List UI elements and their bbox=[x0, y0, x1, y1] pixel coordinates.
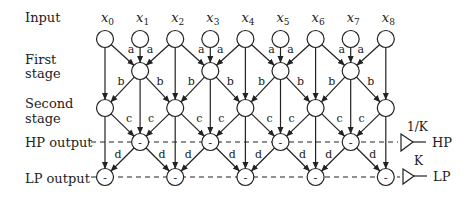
second-stage-node-4 bbox=[237, 100, 254, 117]
input-label-8: x8 bbox=[382, 10, 395, 27]
coef-a-label: a bbox=[217, 43, 224, 56]
coef-b-label: b bbox=[118, 75, 125, 88]
minus-sign: - bbox=[173, 171, 177, 184]
row-label-lp-output: LP output bbox=[25, 171, 91, 186]
second-stage-node-0 bbox=[97, 100, 114, 117]
coef-d-label: d bbox=[229, 148, 236, 161]
coef-c-label: c bbox=[337, 112, 343, 125]
lp-gain-amplifier: K LP bbox=[403, 154, 451, 184]
input-label-5: x5 bbox=[277, 10, 290, 27]
lifting-scheme-diagram: Input First stage Second stage HP output… bbox=[0, 0, 473, 200]
second-stage-node-6 bbox=[307, 100, 324, 117]
minus-sign: - bbox=[314, 171, 318, 184]
hp-output-label: HP bbox=[432, 135, 452, 150]
coef-d-label: d bbox=[299, 148, 306, 161]
coef-b-label: b bbox=[367, 75, 374, 88]
lp-amplifier-triangle-icon bbox=[403, 169, 414, 184]
input-label-2: x2 bbox=[171, 10, 184, 27]
input-label-1: x1 bbox=[136, 10, 149, 27]
second-stage-node-2 bbox=[167, 100, 184, 117]
input-label-7: x7 bbox=[347, 10, 360, 27]
coef-b-label: b bbox=[328, 75, 335, 88]
coef-c-label: c bbox=[359, 112, 365, 125]
hp-amplifier-triangle-icon bbox=[401, 134, 413, 151]
coef-a-label: a bbox=[338, 43, 345, 56]
minus-sign: - bbox=[243, 171, 247, 184]
coef-d-label: d bbox=[185, 148, 192, 161]
coef-a-label: a bbox=[147, 43, 154, 56]
coef-c-label: c bbox=[288, 112, 294, 125]
first-stage-node-5 bbox=[272, 63, 289, 80]
hp-gain-value: 1/K bbox=[407, 120, 429, 134]
coef-d-label: d bbox=[159, 148, 166, 161]
coef-b-label: b bbox=[227, 75, 234, 88]
second-stage-node-8 bbox=[377, 100, 394, 117]
first-stage-node-1 bbox=[132, 63, 149, 80]
input-node-0 bbox=[97, 31, 114, 48]
input-node-8 bbox=[377, 31, 394, 48]
hp-gain-amplifier: 1/K HP bbox=[401, 120, 452, 151]
minus-sign: - bbox=[138, 136, 142, 149]
row-label-first-stage-2: stage bbox=[25, 66, 61, 81]
minus-sign: - bbox=[349, 136, 353, 149]
minus-sign: - bbox=[279, 136, 283, 149]
input-labels: x0x1x2x3x4x5x6x7x8 bbox=[101, 10, 395, 27]
coef-c-label: c bbox=[148, 112, 154, 125]
row-label-second-stage-1: Second bbox=[25, 96, 73, 111]
row-label-hp-output: HP output bbox=[25, 135, 93, 150]
input-node-4 bbox=[237, 31, 254, 48]
coef-b-label: b bbox=[157, 75, 164, 88]
coef-c-label: c bbox=[126, 112, 132, 125]
coef-d-label: d bbox=[255, 148, 262, 161]
lp-output-label: LP bbox=[433, 169, 451, 184]
first-stage-node-3 bbox=[202, 63, 219, 80]
coef-c-label: c bbox=[266, 112, 272, 125]
minus-sign: - bbox=[208, 136, 212, 149]
coef-c-label: c bbox=[218, 112, 224, 125]
input-node-6 bbox=[307, 31, 324, 48]
input-label-3: x3 bbox=[206, 10, 219, 27]
first-stage-node-7 bbox=[342, 63, 359, 80]
coef-d-label: d bbox=[325, 148, 332, 161]
coef-d-label: d bbox=[115, 148, 122, 161]
coef-a-label: a bbox=[287, 43, 294, 56]
coef-a-label: a bbox=[198, 43, 205, 56]
coef-b-label: b bbox=[188, 75, 195, 88]
coef-a-label: a bbox=[357, 43, 364, 56]
coef-a-label: a bbox=[128, 43, 135, 56]
input-label-0: x0 bbox=[101, 10, 114, 27]
row-label-second-stage-2: stage bbox=[25, 111, 61, 126]
coef-c-label: c bbox=[196, 112, 202, 125]
input-node-2 bbox=[167, 31, 184, 48]
coef-a-label: a bbox=[268, 43, 275, 56]
minus-sign: - bbox=[103, 171, 107, 184]
row-label-first-stage-1: First bbox=[25, 52, 57, 67]
row-label-input: Input bbox=[25, 10, 61, 25]
coef-b-label: b bbox=[297, 75, 304, 88]
input-label-4: x4 bbox=[241, 10, 254, 27]
lp-gain-value: K bbox=[414, 154, 424, 168]
input-label-6: x6 bbox=[312, 10, 325, 27]
coef-d-label: d bbox=[369, 148, 376, 161]
minus-sign: - bbox=[384, 171, 388, 184]
coef-b-label: b bbox=[258, 75, 265, 88]
